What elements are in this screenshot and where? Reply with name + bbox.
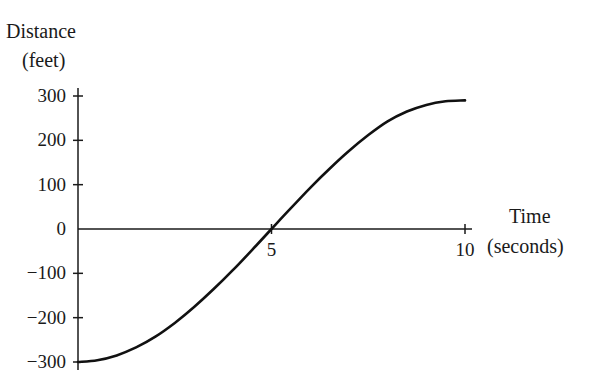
y-axis-label-line2: (feet) xyxy=(22,50,65,70)
chart-canvas xyxy=(0,0,597,387)
y-tick-label: 0 xyxy=(6,219,66,238)
x-tick-label: 5 xyxy=(252,240,292,259)
y-tick-label: −300 xyxy=(6,352,66,371)
x-axis-label-line1: Time xyxy=(509,206,551,226)
y-tick-label: −100 xyxy=(6,263,66,282)
y-tick-label: 100 xyxy=(6,175,66,194)
y-axis-label-line1: Distance xyxy=(6,21,76,41)
y-tick-label: −200 xyxy=(6,308,66,327)
x-tick-label: 10 xyxy=(445,240,485,259)
y-tick-label: 200 xyxy=(6,130,66,149)
y-tick-label: 300 xyxy=(6,86,66,105)
x-axis-label-line2: (seconds) xyxy=(487,236,564,256)
